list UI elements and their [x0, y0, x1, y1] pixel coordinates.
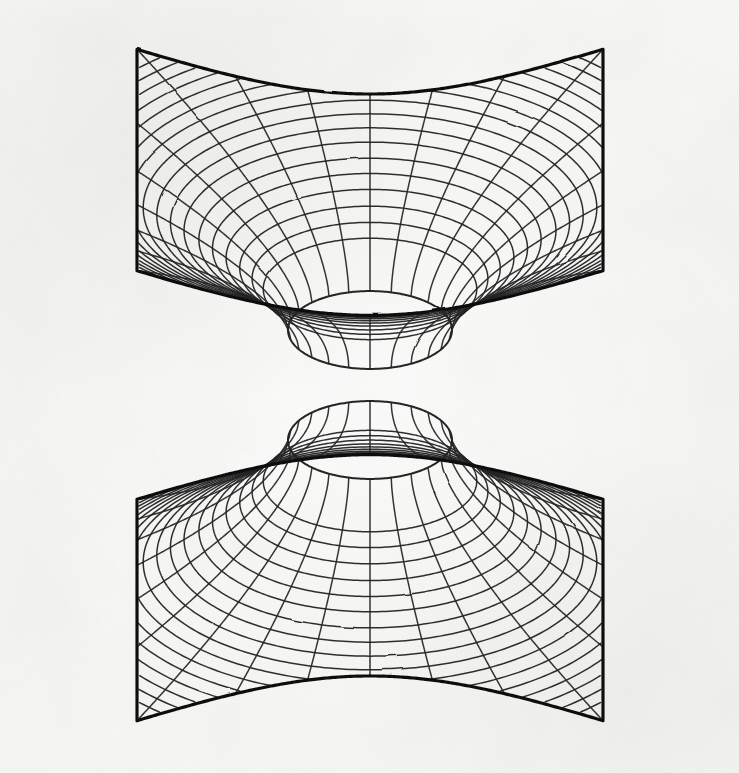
mesh-line: [137, 412, 312, 499]
mesh-line: [137, 171, 291, 320]
mesh-line: [137, 450, 291, 599]
mesh-line: [452, 205, 603, 330]
mesh-line: [138, 73, 217, 110]
mesh-line: [428, 271, 603, 358]
mesh-line: [137, 271, 312, 358]
lower-sheet-group: [137, 401, 603, 721]
mesh-line: [140, 68, 195, 94]
hyperboloid-wireframe: [0, 0, 739, 773]
mesh-line: [138, 660, 217, 697]
mesh-line: [449, 450, 603, 599]
mesh-line: [137, 205, 288, 330]
mesh-line: [523, 73, 602, 110]
mesh-line: [429, 91, 603, 174]
mesh-line: [545, 676, 600, 702]
mesh-line: [449, 171, 603, 320]
mesh-line: [137, 597, 311, 680]
mesh-line: [137, 91, 311, 174]
upper-sheet-group: [137, 49, 603, 369]
mesh-line: [428, 412, 603, 499]
mesh-line: [452, 440, 603, 565]
mesh-line: [429, 597, 603, 680]
mesh-line: [523, 660, 602, 697]
mesh-line: [545, 68, 600, 94]
mesh-line: [137, 440, 288, 565]
mesh-line: [140, 676, 195, 702]
figure-root: [0, 0, 739, 773]
